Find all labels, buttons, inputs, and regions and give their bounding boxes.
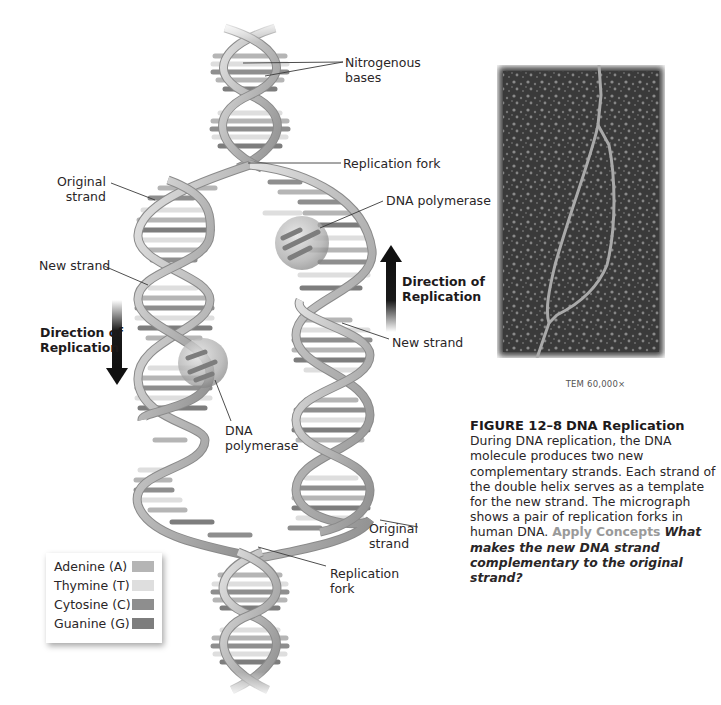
legend-swatch: [132, 599, 154, 610]
legend-swatch: [132, 618, 154, 629]
label-replication-fork-top: Replication fork: [343, 156, 441, 171]
figure-caption: FIGURE 12–8 DNA Replication During DNA r…: [470, 418, 720, 585]
legend-swatch: [132, 561, 154, 572]
legend-item-cytosine: Cytosine (C): [54, 595, 154, 614]
label-replication-fork-bottom: Replication fork: [330, 566, 399, 596]
label-new-strand-left: New strand: [39, 258, 110, 273]
legend-item-thymine: Thymine (T): [54, 576, 154, 595]
label-direction-right: Direction of Replication: [402, 274, 485, 304]
label-dna-polymerase-top: DNA polymerase: [386, 193, 491, 208]
legend-label: Guanine (G): [54, 616, 130, 631]
top-helix: [200, 20, 310, 168]
label-dna-polymerase-bottom: DNA polymerase: [225, 423, 298, 453]
micrograph-magnification: TEM 60,000×: [470, 379, 721, 389]
tem-micrograph: [497, 65, 665, 358]
base-color-legend: Adenine (A) Thymine (T) Cytosine (C) Gua…: [46, 553, 162, 643]
legend-item-guanine: Guanine (G): [54, 614, 154, 633]
label-direction-left: Direction of Replication: [40, 325, 123, 355]
legend-label: Cytosine (C): [54, 597, 131, 612]
legend-swatch: [132, 580, 154, 591]
legend-label: Thymine (T): [54, 578, 130, 593]
apply-concepts-label: Apply Concepts: [552, 524, 660, 539]
label-new-strand-right: New strand: [392, 335, 463, 350]
dna-polymerase-top: [275, 216, 329, 270]
dna-polymerase-bottom: [178, 338, 228, 388]
figure-title: DNA Replication: [566, 418, 685, 433]
bottom-helix: [200, 552, 310, 697]
label-original-strand-top: Original strand: [57, 174, 106, 204]
direction-arrow-up: [380, 245, 402, 332]
label-nitrogenous-bases: Nitrogenous bases: [345, 55, 421, 85]
legend-item-adenine: Adenine (A): [54, 557, 154, 576]
figure-number: FIGURE 12–8: [470, 418, 562, 433]
label-original-strand-bottom: Original strand: [369, 521, 418, 551]
legend-label: Adenine (A): [54, 559, 127, 574]
